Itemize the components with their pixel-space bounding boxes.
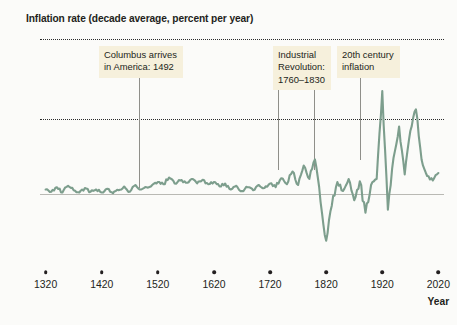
annotation-label-industrial-revolution: Industrial Revolution: 1760–1830 xyxy=(273,46,331,90)
annotation-label-columbus: Columbus arrives in America: 1492 xyxy=(99,46,183,78)
chart-figure: Inflation rate (decade average, percent … xyxy=(0,0,457,325)
data-series-line xyxy=(40,39,444,312)
page-title: Inflation rate (decade average, percent … xyxy=(26,13,253,24)
annotation-label-twentieth-century-inflation: 20th century inflation xyxy=(337,46,400,78)
